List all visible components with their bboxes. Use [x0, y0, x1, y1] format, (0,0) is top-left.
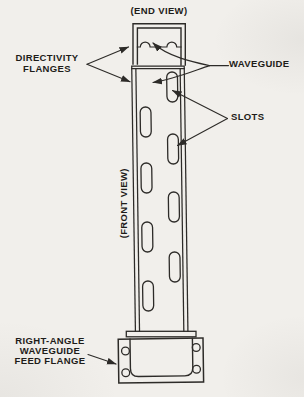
directivity-flanges-arrow-lower [87, 64, 130, 82]
waveguide-left-edge-inner [136, 69, 140, 332]
end-view-drawing [133, 24, 185, 65]
directivity-flanges-arrow-upper [87, 47, 129, 64]
slot [143, 281, 154, 311]
flange-mounting-plate [126, 331, 196, 337]
waveguide-right-edge-inner [180, 69, 184, 332]
slot [141, 163, 152, 193]
slot-array [140, 72, 181, 311]
front-view-drawing [132, 66, 188, 331]
waveguide-right-edge-outer [184, 69, 188, 332]
feed-flange-label: RIGHT-ANGLE WAVEGUIDE FEED FLANGE [3, 336, 97, 366]
directivity-flanges-label-line1: DIRECTIVITY [4, 53, 90, 64]
slot [167, 134, 178, 164]
slot [168, 192, 179, 222]
callout-arrows [87, 43, 229, 364]
waveguide-left-edge-outer [132, 69, 136, 332]
slot [142, 222, 153, 252]
directivity-flanges-label: DIRECTIVITY FLANGES [4, 53, 90, 74]
waveguide-label: WAVEGUIDE [229, 59, 290, 70]
bolt-hole [122, 369, 130, 377]
feed-flange-drawing [118, 331, 203, 383]
feed-flange-label-line3: FEED FLANGE [3, 356, 97, 366]
front-view-label: (FRONT VIEW) [119, 165, 130, 241]
bolt-hole [193, 365, 201, 373]
end-view-slotted-face-wavy-line [137, 42, 181, 47]
slot [169, 252, 180, 282]
slots-label: SLOTS [231, 112, 264, 123]
slot [140, 107, 151, 137]
bolt-hole [192, 344, 200, 352]
waveguide-top-cap [132, 66, 185, 69]
end-view-label: (END VIEW) [103, 6, 215, 17]
slotted-waveguide-diagram: (END VIEW) DIRECTIVITY FLANGES WAVEGUIDE… [0, 0, 304, 397]
flange-throat-opening [130, 338, 193, 376]
directivity-flanges-label-line2: FLANGES [4, 64, 90, 75]
bolt-hole [122, 347, 130, 355]
